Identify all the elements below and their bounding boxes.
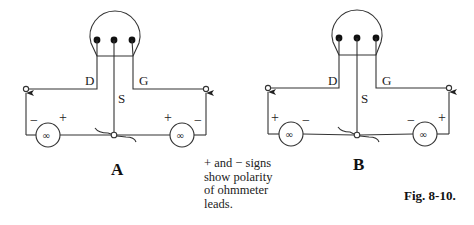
source-label: S xyxy=(118,91,125,106)
right-meter-left-sign: + xyxy=(164,110,172,125)
drain-label: D xyxy=(85,73,94,88)
panel-a-label: A xyxy=(111,160,124,179)
right-meter-right-sign: − xyxy=(194,113,202,128)
figure-caption: Fig. 8-10. xyxy=(404,188,456,204)
note-line: of ohmmeter xyxy=(204,184,314,198)
panel-a xyxy=(23,11,208,147)
left-meter-reading: ∞ xyxy=(285,129,293,140)
left-meter-reading: ∞ xyxy=(42,130,50,141)
note-line: show polarity xyxy=(204,171,314,185)
right-meter-right-sign: + xyxy=(438,110,446,125)
junction-circle xyxy=(111,132,117,138)
gate-label: G xyxy=(139,73,148,88)
right-meter-reading: ∞ xyxy=(176,130,184,141)
gate-label: G xyxy=(382,73,391,88)
left-meter-right-sign: + xyxy=(59,110,67,125)
note-line: + and − signs xyxy=(204,157,314,171)
terminal-circle-icon xyxy=(446,85,451,90)
note-line: leads. xyxy=(204,198,314,212)
panel-b-label: B xyxy=(353,155,364,174)
left-meter-right-sign: − xyxy=(302,113,310,128)
right-meter-left-sign: − xyxy=(407,113,415,128)
terminal-circle-icon xyxy=(265,85,270,90)
polarity-note: + and − signs show polarity of ohmmeter … xyxy=(204,157,314,211)
terminal-circle-icon xyxy=(23,86,28,91)
left-meter-left-sign: + xyxy=(271,110,279,125)
panel-b xyxy=(265,10,451,146)
drain-label: D xyxy=(328,73,337,88)
terminal-circle-icon xyxy=(203,86,208,91)
left-meter-left-sign: − xyxy=(30,113,38,128)
source-label: S xyxy=(361,91,368,106)
junction-circle xyxy=(354,132,360,138)
right-meter-reading: ∞ xyxy=(419,129,427,140)
